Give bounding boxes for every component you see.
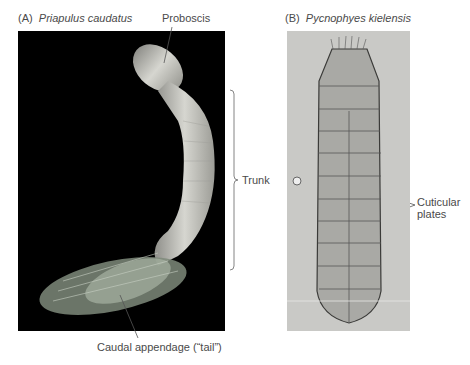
panel-a-species: Priapulus caudatus (39, 12, 133, 24)
label-trunk: Trunk (242, 174, 270, 186)
priapulus-illustration (18, 31, 225, 331)
panel-b-species: Pycnophyes kielensis (306, 12, 411, 24)
priapulus-photo (18, 31, 225, 331)
panel-a-letter: (A) (18, 12, 33, 24)
panel-b-letter: (B) (285, 12, 300, 24)
label-proboscis: Proboscis (162, 12, 210, 24)
label-cuticular-line1: Cuticular (417, 196, 460, 208)
pycnophyes-micrograph (287, 31, 410, 331)
label-caudal-appendage: Caudal appendage (“tail”) (97, 341, 222, 353)
panel-a-title: (A) Priapulus caudatus (18, 12, 132, 24)
pycnophyes-illustration (287, 31, 410, 331)
label-cuticular-plates: Cuticular plates (417, 196, 460, 220)
panel-b-title: (B) Pycnophyes kielensis (285, 12, 411, 24)
label-cuticular-line2: plates (417, 208, 460, 220)
